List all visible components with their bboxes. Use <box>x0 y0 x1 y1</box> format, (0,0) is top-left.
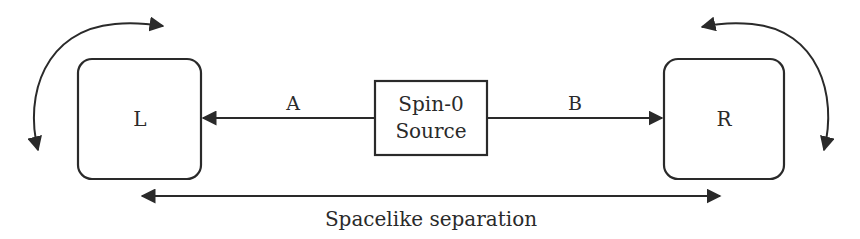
right-detector-label: R <box>716 107 732 131</box>
left-detector-label: L <box>133 107 146 131</box>
arrow-b: B <box>487 92 662 118</box>
spacelike-separation: Spacelike separation <box>142 196 720 231</box>
arrow-b-label: B <box>568 92 582 114</box>
spacelike-separation-label: Spacelike separation <box>325 207 537 231</box>
left-detector: L <box>78 59 201 179</box>
epr-diagram: L R Spin-0 Source A B Spacelike separati… <box>0 0 860 239</box>
arrow-a-label: A <box>285 92 300 114</box>
source-label-line2: Source <box>395 119 466 143</box>
source-label-line1: Spin-0 <box>398 92 463 116</box>
spin-0-source: Spin-0 Source <box>375 81 487 155</box>
arrow-a: A <box>203 92 375 118</box>
right-detector: R <box>664 59 784 179</box>
